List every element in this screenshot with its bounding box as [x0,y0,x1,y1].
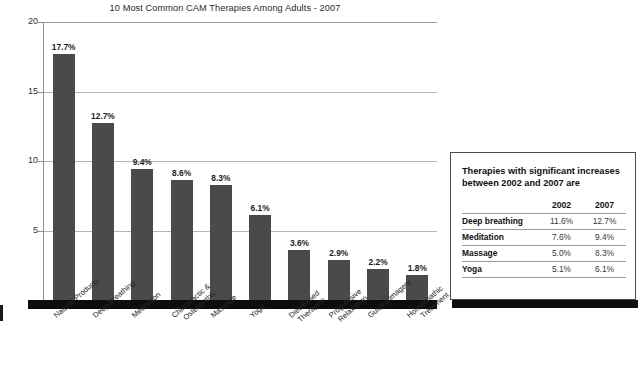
column-header-therapy [462,197,540,213]
x-axis-labels: Natural ProductsDeep BreathingMeditation… [0,309,450,374]
y-tick-label: 20 [4,16,38,26]
cell-2007: 6.1% [583,261,626,277]
y-tick-label: 5 [4,225,38,235]
page-edge-artifact [0,305,3,321]
bar [288,250,310,300]
table-row: Yoga5.1%6.1% [462,261,626,277]
cell-2007: 12.7% [583,213,626,229]
bar [249,215,271,300]
cell-therapy: Deep breathing [462,213,540,229]
y-tick-label: 15 [4,86,38,96]
bar [210,185,232,300]
side-table-shadow [452,300,638,308]
bar-value-label: 2.9% [329,248,348,258]
gridline [44,22,437,23]
table-row: Deep breathing11.6%12.7% [462,213,626,229]
bar-value-label: 12.7% [91,111,115,121]
table-row: Massage5.0%8.3% [462,245,626,261]
bar [328,260,350,300]
bar-value-label: 8.3% [211,173,230,183]
bar-value-label: 1.8% [408,263,427,273]
cell-2007: 9.4% [583,229,626,245]
y-axis-ticks: 2015105 [0,22,38,300]
cell-2002: 11.6% [540,213,583,229]
bar [171,180,193,300]
cell-2002: 7.6% [540,229,583,245]
cell-therapy: Meditation [462,229,540,245]
column-header-2007: 2007 [583,197,626,213]
bar [131,169,153,300]
bar-value-label: 6.1% [251,203,270,213]
cell-therapy: Massage [462,245,540,261]
side-table-heading: Therapies with significant increases bet… [462,165,630,189]
gridline [44,92,437,93]
cell-2002: 5.0% [540,245,583,261]
table-row: Meditation7.6%9.4% [462,229,626,245]
column-header-2002: 2002 [540,197,583,213]
y-tick-label: 10 [4,155,38,165]
bar-value-label: 8.6% [172,168,191,178]
cell-2007: 8.3% [583,245,626,261]
cell-therapy: Yoga [462,261,540,277]
table-body: Deep breathing11.6%12.7%Meditation7.6%9.… [462,213,626,277]
bar-value-label: 2.2% [369,257,388,267]
side-table-panel: Therapies with significant increases bet… [450,152,636,300]
significant-increases-table: 2002 2007 Deep breathing11.6%12.7%Medita… [462,197,626,278]
bar-value-label: 17.7% [52,42,76,52]
bar-value-label: 3.6% [290,238,309,248]
plot-area: 17.7%12.7%9.4%8.6%8.3%6.1%3.6%2.9%2.2%1.… [44,22,437,300]
table-header-row: 2002 2007 [462,197,626,213]
bar-value-label: 9.4% [133,157,152,167]
bar-chart: 10 Most Common CAM Therapies Among Adult… [0,0,450,374]
chart-title: 10 Most Common CAM Therapies Among Adult… [55,3,395,13]
bar [53,54,75,300]
bar [92,123,114,300]
cell-2002: 5.1% [540,261,583,277]
